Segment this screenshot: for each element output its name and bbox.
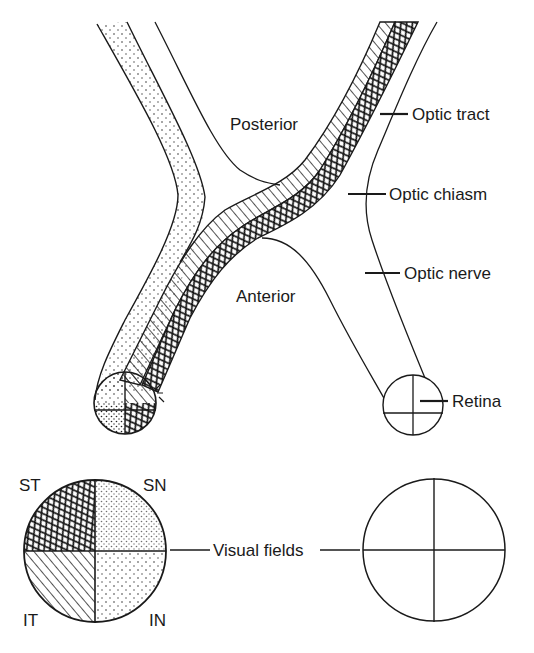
anterior-notch-outline [262,238,385,400]
right-retina [383,375,443,435]
optic-nerve-label: Optic nerve [404,265,491,282]
left-visual-field [24,480,166,622]
optic-pathway-diagram: Posterior Anterior Optic tract Optic chi… [0,0,534,653]
visual-fields-label: Visual fields [213,542,303,559]
posterior-label: Posterior [230,116,298,133]
retina-label: Retina [452,393,501,410]
right-visual-field [363,478,505,622]
optic-tract-label: Optic tract [412,106,489,123]
crossing-fibers [120,22,418,392]
quadrant-it-label: IT [23,612,38,629]
anterior-label: Anterior [236,288,296,305]
optic-chiasm-label: Optic chiasm [389,186,487,203]
quadrant-st-label: ST [19,477,41,494]
quadrant-sn-label: SN [143,477,167,494]
quadrant-in-label: IN [149,612,166,629]
